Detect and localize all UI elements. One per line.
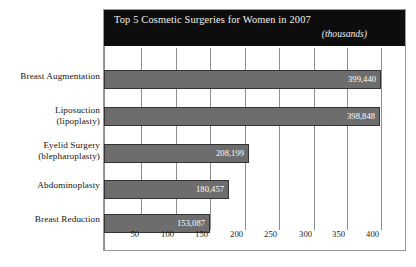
category-label-line1: Liposuction: [55, 105, 100, 115]
category-label-abdominoplasty: Abdominoplasty: [0, 180, 100, 191]
bar-value-label: 153,087: [177, 218, 205, 228]
category-label-line2: (blepharoplasty): [0, 151, 100, 162]
category-label-breast-augmentation: Breast Augmentation: [0, 71, 100, 82]
category-label-eyelid-surgery: Eyelid Surgery (blepharoplasty): [0, 140, 100, 161]
x-tick-350: 350: [317, 228, 345, 240]
plot-area: 399,440 398,848 208,199 180,457 153,087: [104, 46, 405, 250]
x-tick-300: 300: [284, 228, 312, 240]
bar-value-label: 208,199: [216, 148, 244, 158]
x-tick-200: 200: [215, 228, 243, 240]
x-tick-50: 50: [111, 228, 139, 240]
bar-abdominoplasty: 180,457: [104, 180, 229, 199]
bar-breast-augmentation: 399,440: [104, 70, 381, 89]
page-title: Top 5 Cosmetic Surgeries for Women in 20…: [114, 13, 395, 27]
bar-value-label: 180,457: [196, 184, 224, 194]
category-label-breast-reduction: Breast Reduction: [0, 214, 100, 225]
chart-subtitle: (thousands): [114, 27, 395, 40]
x-tick-250: 250: [249, 228, 277, 240]
x-tick-400: 400: [351, 228, 379, 240]
x-axis-tick-labels: 50 100 150 200 250 300 350 400: [104, 228, 405, 244]
category-label-liposuction: Liposuction (lipoplasty): [0, 105, 100, 126]
bar-value-label: 398,848: [347, 111, 375, 121]
category-label-line1: Eyelid Surgery: [43, 140, 100, 150]
category-label-line1: Breast Reduction: [35, 214, 100, 224]
category-label-line1: Abdominoplasty: [37, 180, 100, 190]
category-label-line1: Breast Augmentation: [20, 71, 100, 81]
chart-figure: Breast Augmentation Liposuction (lipopla…: [0, 0, 416, 267]
x-tick-100: 100: [146, 228, 174, 240]
category-label-line2: (lipoplasty): [0, 116, 100, 127]
bar-value-label: 399,440: [348, 74, 376, 84]
x-tick-150: 150: [180, 228, 208, 240]
bar-liposuction: 398,848: [104, 107, 380, 126]
category-axis-labels: Breast Augmentation Liposuction (lipopla…: [0, 47, 100, 227]
chart-title-banner: Top 5 Cosmetic Surgeries for Women in 20…: [104, 10, 405, 46]
bar-series: 399,440 398,848 208,199 180,457 153,087: [104, 46, 405, 230]
bar-eyelid-surgery: 208,199: [104, 144, 249, 163]
